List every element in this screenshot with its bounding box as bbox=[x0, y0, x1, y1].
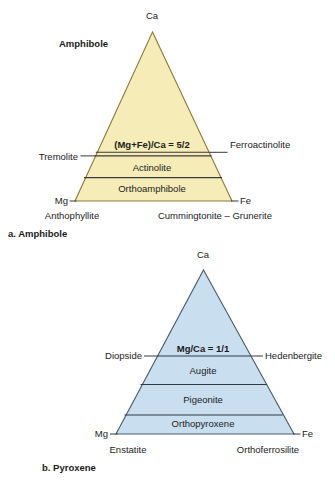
pyroxene-orthopyroxene-label: Orthopyroxene bbox=[172, 419, 235, 429]
diagram-svg bbox=[0, 0, 335, 482]
amphibole-anthophyllite-label: Anthophyllite bbox=[45, 211, 99, 221]
pyroxene-hedenbergite-label: Hedenbergite bbox=[265, 351, 322, 361]
amphibole-apex-label: Ca bbox=[146, 11, 158, 21]
pyroxene-ratio-label: Mg/Ca = 1/1 bbox=[177, 344, 230, 354]
amphibole-tremolite-label: Tremolite bbox=[39, 152, 78, 162]
pyroxene-enstatite-label: Enstatite bbox=[110, 445, 147, 455]
pyroxene-mg-label: Mg bbox=[95, 429, 108, 439]
panel-b-caption: b. Pyroxene bbox=[42, 462, 96, 473]
amphibole-orthoamphibole-label: Orthoamphibole bbox=[118, 184, 186, 194]
pyroxene-augite-label: Augite bbox=[190, 366, 217, 376]
amphibole-pyramid bbox=[70, 32, 239, 201]
amphibole-cummingtonite-label: Cummingtonite – Grunerite bbox=[158, 211, 272, 221]
pyroxene-orthoferrosilite-label: Orthoferrosilite bbox=[237, 445, 299, 455]
amphibole-group-label: Amphibole bbox=[59, 39, 108, 49]
amphibole-actinolite-label: Actinolite bbox=[133, 163, 172, 173]
amphibole-ferroactinolite-label: Ferroactinolite bbox=[230, 140, 290, 150]
amphibole-ratio-label: (Mg+Fe)/Ca = 5/2 bbox=[114, 140, 190, 150]
amphibole-triangle-fill bbox=[75, 32, 232, 201]
amphibole-mg-label: Mg bbox=[55, 196, 68, 206]
figure-container: Ca Amphibole (Mg+Fe)/Ca = 5/2 Tremolite … bbox=[0, 0, 335, 482]
pyroxene-diopside-label: Diopside bbox=[105, 351, 142, 361]
pyroxene-pigeonite-label: Pigeonite bbox=[183, 395, 223, 405]
pyroxene-apex-label: Ca bbox=[197, 250, 209, 260]
pyroxene-fe-label: Fe bbox=[302, 429, 313, 439]
amphibole-fe-label: Fe bbox=[240, 196, 251, 206]
panel-a-caption: a. Amphibole bbox=[8, 228, 67, 239]
